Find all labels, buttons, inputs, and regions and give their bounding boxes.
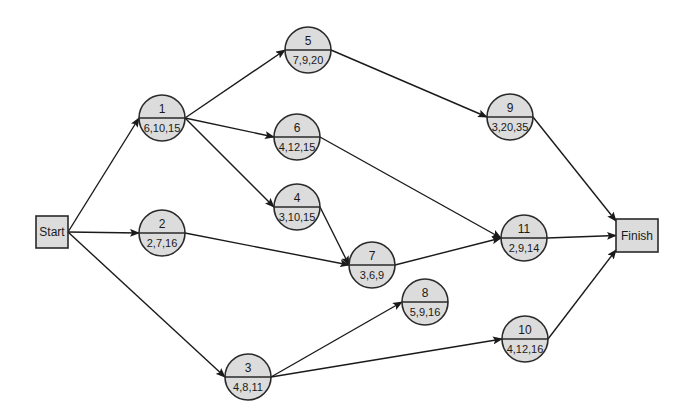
node-id: 4 [294, 191, 301, 205]
edge-5-to-9 [331, 50, 487, 117]
finish-label: Finish [621, 229, 653, 243]
node-estimates: 2,7,16 [147, 237, 178, 249]
nodes: 16,10,1522,7,1634,8,1143,10,1557,9,2064,… [139, 27, 548, 400]
node-estimates: 7,9,20 [293, 54, 324, 66]
activity-node-8: 85,9,16 [402, 279, 448, 325]
activity-node-1: 16,10,15 [139, 95, 185, 141]
edge-3-to-10 [271, 339, 502, 377]
node-estimates: 3,10,15 [279, 211, 316, 223]
node-id: 10 [518, 323, 532, 337]
edge-2-to-7 [185, 233, 349, 265]
edge-start-to-1 [68, 118, 139, 232]
edge-start-to-3 [68, 232, 225, 377]
node-estimates: 6,10,15 [144, 122, 181, 134]
edge-1-to-4 [185, 118, 274, 207]
node-estimates: 2,9,14 [509, 242, 540, 254]
node-id: 8 [422, 286, 429, 300]
edge-start-to-2 [68, 232, 139, 233]
edge-1-to-6 [185, 118, 274, 137]
node-id: 3 [245, 361, 252, 375]
node-id: 5 [305, 34, 312, 48]
node-id: 1 [159, 102, 166, 116]
node-id: 11 [518, 222, 531, 236]
terminals: Start Finish [36, 216, 658, 252]
start-node: Start [36, 216, 68, 248]
node-id: 9 [507, 101, 514, 115]
edge-10-to-finish [548, 250, 616, 339]
node-id: 2 [159, 217, 166, 231]
node-estimates: 3,6,9 [360, 269, 384, 281]
node-estimates: 5,9,16 [410, 306, 441, 318]
activity-node-7: 73,6,9 [349, 242, 395, 288]
edge-6-to-11 [320, 137, 501, 238]
node-estimates: 4,12,16 [507, 343, 544, 355]
activity-node-5: 57,9,20 [285, 27, 331, 73]
edge-7-to-11 [395, 238, 501, 265]
start-label: Start [39, 225, 65, 239]
activity-node-2: 22,7,16 [139, 210, 185, 256]
edge-4-to-7 [320, 207, 349, 265]
activity-node-9: 93,20,35 [487, 94, 533, 140]
activity-node-11: 112,9,14 [501, 215, 547, 261]
edge-9-to-finish [533, 117, 616, 221]
node-estimates: 4,8,11 [233, 381, 263, 393]
activity-node-10: 104,12,16 [502, 316, 548, 362]
activity-node-3: 34,8,11 [225, 354, 271, 400]
edge-1-to-5 [185, 50, 285, 118]
activity-network-diagram: 16,10,1522,7,1634,8,1143,10,1557,9,2064,… [0, 0, 695, 420]
finish-node: Finish [616, 219, 658, 252]
node-id: 7 [369, 249, 376, 263]
activity-node-6: 64,12,15 [274, 114, 320, 160]
node-estimates: 3,20,35 [492, 121, 529, 133]
node-id: 6 [294, 121, 301, 135]
edge-11-to-finish [547, 236, 616, 239]
activity-node-4: 43,10,15 [274, 184, 320, 230]
node-estimates: 4,12,15 [279, 141, 316, 153]
